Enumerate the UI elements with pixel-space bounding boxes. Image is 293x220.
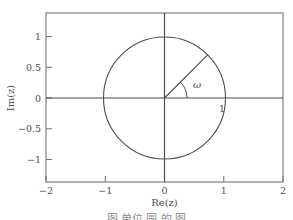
complex-plane-figure: ω 1 −2 −1 0 1 2 1 0.5 0 −0.5 −1 Re(z) Im…	[0, 0, 293, 220]
x-tick-label-4: 2	[280, 185, 286, 196]
y-axis-label: Im(z)	[5, 85, 16, 112]
angle-label-omega: ω	[193, 79, 201, 90]
unit-point-label: 1	[219, 103, 225, 114]
x-axis-label: Re(z)	[151, 197, 178, 208]
x-tick-label-3: 1	[221, 185, 227, 196]
unit-circle-plot: ω 1 −2 −1 0 1 2 1 0.5 0 −0.5 −1 Re(z) Im…	[0, 0, 293, 220]
x-tick-label-2: 0	[161, 185, 167, 196]
x-tick-label-0: −2	[39, 185, 53, 196]
y-tick-label-3: −0.5	[18, 123, 41, 134]
x-tick-label-1: −1	[98, 185, 112, 196]
figure-caption: 图 单位 圆 的 图	[0, 211, 293, 220]
y-tick-label-0: 1	[35, 31, 41, 42]
y-tick-label-2: 0	[35, 93, 41, 104]
y-tick-label-1: 0.5	[26, 62, 41, 73]
y-tick-label-4: −1	[27, 154, 41, 165]
